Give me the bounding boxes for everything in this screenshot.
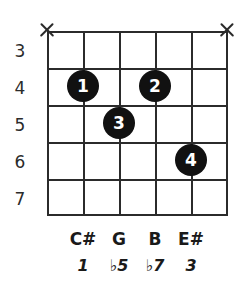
fret-number-2: 4 (0, 80, 40, 97)
fret-number-1: 3 (0, 43, 40, 60)
fret-line-5 (47, 214, 228, 216)
finger-dot-label-1: 1 (77, 78, 89, 95)
mute-x-icon-string-1 (38, 21, 56, 39)
string-line-5 (191, 31, 193, 216)
fret-number-3: 5 (0, 117, 40, 134)
string-line-2 (83, 31, 85, 216)
string-line-4 (155, 31, 157, 216)
fret-line-3 (47, 142, 228, 144)
fret-number-4: 6 (0, 154, 40, 171)
interval-label-string-5: 3 (167, 258, 215, 274)
finger-dot-1: 1 (67, 70, 99, 102)
finger-dot-4: 4 (175, 144, 207, 176)
fret-number-5: 7 (0, 191, 40, 208)
note-label-string-5: E# (167, 231, 215, 248)
string-line-6 (226, 31, 228, 216)
fretboard-grid (47, 31, 228, 216)
string-line-1 (47, 31, 49, 216)
chord-diagram: 3 4 5 6 7 1 2 3 4 C# G B E# 1 ♭ (0, 0, 248, 285)
fret-line-2 (47, 105, 228, 107)
finger-dot-2: 2 (139, 70, 171, 102)
finger-dot-label-3: 3 (113, 115, 125, 132)
finger-dot-label-4: 4 (185, 152, 197, 169)
mute-x-icon-string-6 (218, 21, 236, 39)
fret-line-1 (47, 68, 228, 70)
finger-dot-3: 3 (103, 107, 135, 139)
finger-dot-label-2: 2 (149, 78, 161, 95)
fret-line-nut (47, 31, 228, 33)
fret-line-4 (47, 179, 228, 181)
